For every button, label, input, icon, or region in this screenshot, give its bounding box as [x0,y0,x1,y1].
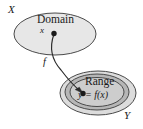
set-x-label: X [8,4,15,15]
function-mapping-figure: X Y Domain x f Range y = f(x) [0,0,143,129]
range-label: Range [85,76,114,88]
point-x-label: x [40,26,44,35]
range-equation-label: y = f(x) [78,90,108,100]
point-x-dot [51,31,56,36]
function-f-label: f [43,57,46,68]
domain-label: Domain [37,14,74,26]
set-y-label: Y [124,110,130,121]
